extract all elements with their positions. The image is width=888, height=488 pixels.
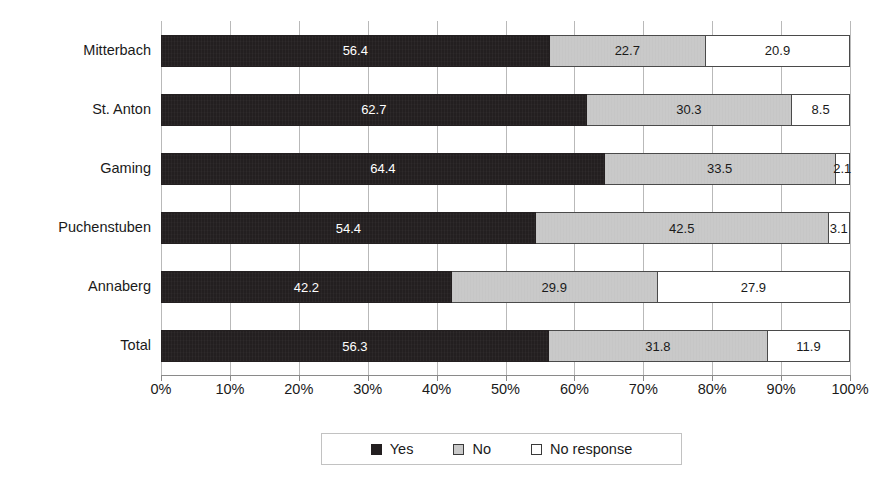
bar-row: 54.442.53.1: [161, 212, 850, 244]
bar-value-label: 3.1: [830, 221, 848, 236]
x-tick-label: 70%: [629, 381, 658, 397]
gridline-0: [161, 21, 162, 376]
bar-segment: 22.7: [550, 35, 706, 67]
bar-value-label: 2.1: [833, 161, 851, 176]
x-tick-label: 80%: [698, 381, 727, 397]
bar-segment: 11.9: [768, 330, 850, 362]
x-tick-label: 20%: [284, 381, 313, 397]
chart-legend: Yes No No response: [321, 433, 682, 465]
category-label: Puchenstuben: [1, 219, 151, 235]
white-square-swatch-icon: [531, 444, 542, 455]
bar-segment: 20.9: [706, 35, 850, 67]
gridline-60: [574, 21, 575, 376]
bar-segment: 42.5: [536, 212, 829, 244]
legend-label-no: No: [472, 441, 491, 457]
gridline-40: [437, 21, 438, 376]
bar-value-label: 42.5: [669, 221, 694, 236]
category-label: Mitterbach: [1, 42, 151, 58]
legend-item-no-response: No response: [531, 441, 632, 457]
x-tick-label: 30%: [353, 381, 382, 397]
gridline-50: [506, 21, 507, 376]
bar-row: 62.730.38.5: [161, 94, 850, 126]
x-tick-label: 50%: [491, 381, 520, 397]
bar-row: 42.229.927.9: [161, 271, 850, 303]
bar-value-label: 27.9: [741, 280, 766, 295]
bar-value-label: 54.4: [336, 221, 361, 236]
gridline-70: [643, 21, 644, 376]
x-tick-label: 100%: [831, 381, 868, 397]
bar-segment: 8.5: [792, 94, 850, 126]
bar-segment: 42.2: [161, 271, 452, 303]
black-square-swatch-icon: [371, 444, 382, 455]
bar-segment: 62.7: [161, 94, 587, 126]
gridline-20: [299, 21, 300, 376]
plot-area: 56.422.720.962.730.38.564.433.52.154.442…: [161, 21, 850, 376]
bar-value-label: 42.2: [294, 280, 319, 295]
gray-square-swatch-icon: [453, 444, 464, 455]
bar-segment: 33.5: [605, 153, 836, 185]
category-label: Total: [1, 337, 151, 353]
x-axis-tick-labels: 0%10%20%30%40%50%60%70%80%90%100%: [0, 381, 888, 403]
x-tick-label: 40%: [422, 381, 451, 397]
bar-segment: 3.1: [829, 212, 850, 244]
stacked-bar-chart: MitterbachSt. AntonGamingPuchenstubenAnn…: [0, 0, 888, 488]
bar-segment: 30.3: [587, 94, 793, 126]
bar-value-label: 62.7: [361, 102, 386, 117]
bar-row: 64.433.52.1: [161, 153, 850, 185]
legend-label-yes: Yes: [390, 441, 414, 457]
category-axis: MitterbachSt. AntonGamingPuchenstubenAnn…: [0, 21, 151, 376]
legend-item-no: No: [453, 441, 491, 457]
category-label: Annaberg: [1, 278, 151, 294]
bar-value-label: 56.3: [342, 339, 367, 354]
category-label: St. Anton: [1, 101, 151, 117]
legend-item-yes: Yes: [371, 441, 414, 457]
gridline-80: [712, 21, 713, 376]
bar-segment: 29.9: [452, 271, 658, 303]
bar-value-label: 29.9: [542, 280, 567, 295]
bar-row: 56.422.720.9: [161, 35, 850, 67]
bar-value-label: 22.7: [615, 43, 640, 58]
bar-value-label: 11.9: [796, 339, 820, 354]
legend-label-no-response: No response: [550, 441, 632, 457]
chart-title-clipped: [0, 0, 888, 1]
bar-segment: 54.4: [161, 212, 536, 244]
gridline-30: [368, 21, 369, 376]
x-tick-label: 90%: [767, 381, 796, 397]
bar-segment: 31.8: [549, 330, 768, 362]
bar-value-label: 20.9: [765, 43, 790, 58]
bar-value-label: 31.8: [645, 339, 670, 354]
bar-value-label: 30.3: [676, 102, 701, 117]
bar-segment: 64.4: [161, 153, 605, 185]
gridline-10: [230, 21, 231, 376]
x-tick-label: 0%: [151, 381, 172, 397]
bar-row: 56.331.811.9: [161, 330, 850, 362]
bar-segment: 2.1: [836, 153, 850, 185]
category-label: Gaming: [1, 160, 151, 176]
bar-value-label: 33.5: [707, 161, 732, 176]
gridline-90: [781, 21, 782, 376]
bar-value-label: 8.5: [812, 102, 830, 117]
bar-value-label: 64.4: [370, 161, 395, 176]
x-tick-label: 10%: [215, 381, 244, 397]
bar-value-label: 56.4: [343, 43, 368, 58]
bar-segment: 56.3: [161, 330, 549, 362]
x-tick-label: 60%: [560, 381, 589, 397]
gridline-100: [850, 21, 851, 376]
bar-segment: 56.4: [161, 35, 550, 67]
bar-segment: 27.9: [658, 271, 850, 303]
